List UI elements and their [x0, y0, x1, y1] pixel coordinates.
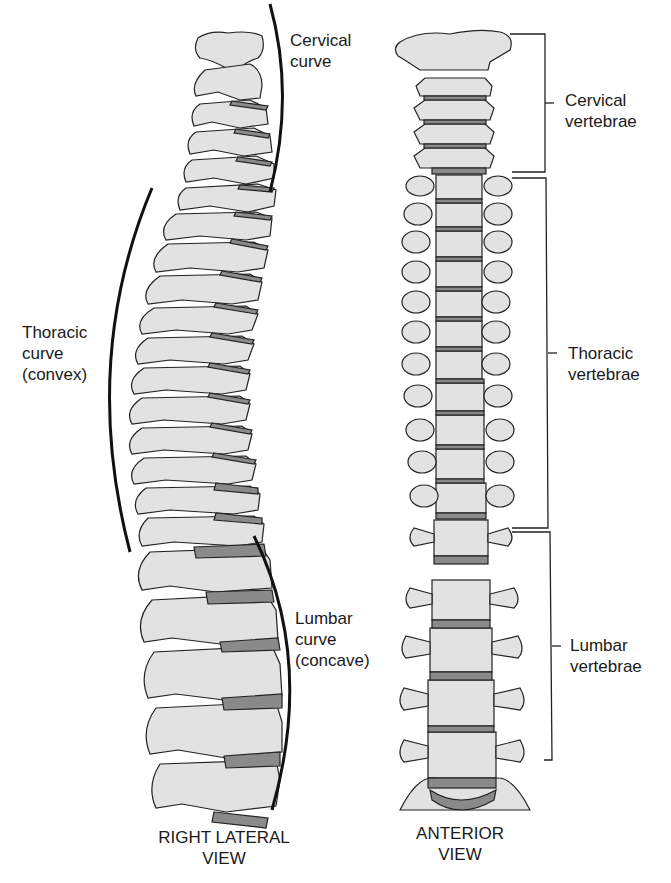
- thoracic-anterior: [402, 175, 514, 513]
- thoracic-vertebrae-label: Thoracic vertebrae: [568, 343, 640, 385]
- cervical-vertebrae-label: Cervical vertebrae: [565, 90, 637, 132]
- anterior-view-caption: ANTERIOR VIEW: [400, 823, 520, 865]
- cervical-curve-label: Cervical curve: [290, 30, 351, 72]
- spine-illustration: [0, 0, 671, 883]
- lateral-view-caption: RIGHT LATERAL VIEW: [138, 827, 310, 869]
- thoracic-bracket: [512, 178, 548, 528]
- cervical-bracket: [510, 34, 545, 172]
- thoracic-curve-label: Thoracic curve (convex): [22, 322, 87, 385]
- lateral-spine: [130, 32, 282, 828]
- lumbar-vertebrae-label: Lumbar vertebrae: [570, 635, 642, 677]
- anterior-spine: [395, 30, 530, 810]
- lumbar-curve-label: Lumbar curve (concave): [295, 608, 370, 671]
